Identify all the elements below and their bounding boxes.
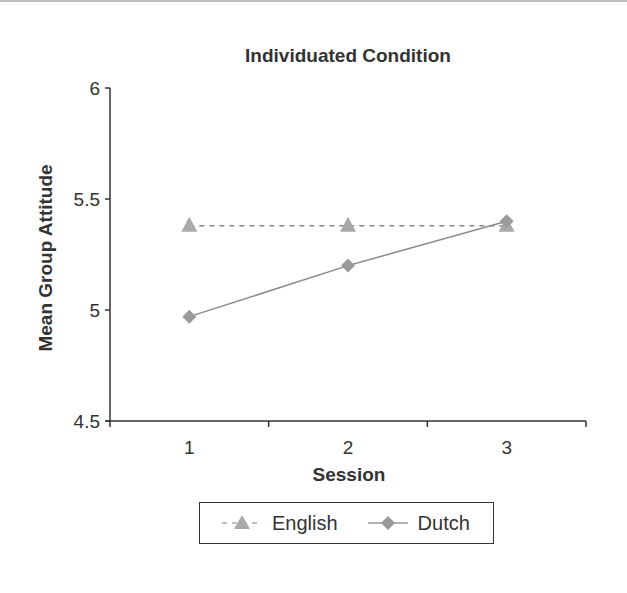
legend: English Dutch [199,502,494,544]
legend-label-dutch: Dutch [418,512,470,535]
y-tick-label: 4.5 [74,411,100,432]
series-english [181,217,514,232]
x-tick-label: 1 [184,437,195,458]
legend-item-dutch: Dutch [366,512,470,535]
x-tick-labels: 123 [184,437,512,458]
legend-item-english: English [220,512,338,535]
diamond-marker-icon [366,513,410,533]
legend-label-english: English [272,512,338,535]
triangle-marker-icon [220,513,264,533]
axes [105,88,586,427]
y-axis-label: Mean Group Attitude [35,164,56,351]
triangle-marker [181,217,197,232]
chart-title: Individuated Condition [245,45,451,66]
triangle-marker [340,217,356,232]
x-tick-label: 2 [343,437,354,458]
y-tick-label: 5 [89,300,100,321]
diamond-marker [341,259,355,273]
y-tick-labels: 65.554.5 [74,78,100,432]
diamond-marker [182,310,196,324]
y-tick-label: 6 [89,78,100,99]
x-tick-label: 3 [501,437,512,458]
y-tick-label: 5.5 [74,189,100,210]
x-axis-label: Session [313,464,386,485]
